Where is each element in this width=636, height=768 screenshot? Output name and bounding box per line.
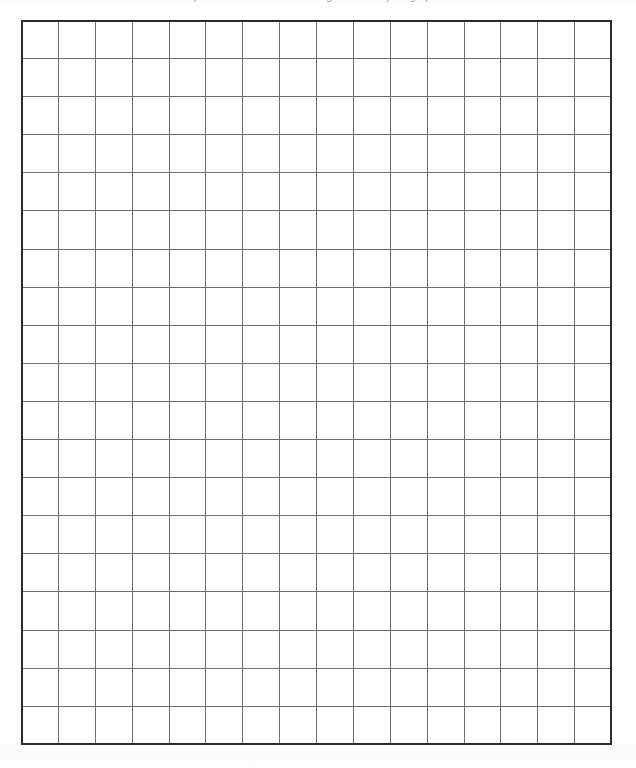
grid-cell[interactable] (169, 249, 206, 287)
grid-cell[interactable] (206, 287, 243, 325)
grid-cell[interactable] (353, 59, 390, 97)
grid-cell[interactable] (95, 249, 132, 287)
grid-cell[interactable] (501, 135, 538, 173)
grid-cell[interactable] (575, 325, 612, 363)
grid-cell[interactable] (206, 516, 243, 554)
grid-cell[interactable] (317, 135, 354, 173)
grid-cell[interactable] (58, 554, 95, 592)
grid-cell[interactable] (501, 440, 538, 478)
grid-cell[interactable] (243, 554, 280, 592)
grid-cell[interactable] (427, 59, 464, 97)
grid-cell[interactable] (427, 97, 464, 135)
grid-cell[interactable] (243, 401, 280, 439)
grid-cell[interactable] (243, 173, 280, 211)
grid-cell[interactable] (58, 287, 95, 325)
grid-cell[interactable] (243, 706, 280, 744)
grid-cell[interactable] (58, 668, 95, 706)
grid-cell[interactable] (427, 249, 464, 287)
grid-cell[interactable] (132, 592, 169, 630)
grid-cell[interactable] (58, 592, 95, 630)
grid-cell[interactable] (427, 401, 464, 439)
grid-cell[interactable] (390, 287, 427, 325)
grid-cell[interactable] (280, 668, 317, 706)
grid-cell[interactable] (280, 363, 317, 401)
grid-cell[interactable] (464, 363, 501, 401)
grid-cell[interactable] (132, 401, 169, 439)
grid-cell[interactable] (501, 325, 538, 363)
grid-cell[interactable] (501, 706, 538, 744)
grid-cell[interactable] (243, 97, 280, 135)
grid-cell[interactable] (317, 592, 354, 630)
grid-cell[interactable] (22, 440, 59, 478)
grid-cell[interactable] (132, 706, 169, 744)
grid-cell[interactable] (575, 173, 612, 211)
grid-cell[interactable] (464, 59, 501, 97)
grid-cell[interactable] (575, 363, 612, 401)
grid-cell[interactable] (538, 478, 575, 516)
grid-cell[interactable] (132, 668, 169, 706)
grid-cell[interactable] (95, 325, 132, 363)
grid-cell[interactable] (427, 592, 464, 630)
grid-cell[interactable] (317, 516, 354, 554)
grid-cell[interactable] (575, 630, 612, 668)
grid-cell[interactable] (132, 478, 169, 516)
grid-cell[interactable] (575, 478, 612, 516)
grid-cell[interactable] (280, 21, 317, 59)
grid-cell[interactable] (22, 516, 59, 554)
grid-cell[interactable] (390, 401, 427, 439)
grid-cell[interactable] (538, 287, 575, 325)
grid-cell[interactable] (390, 97, 427, 135)
grid-cell[interactable] (95, 440, 132, 478)
grid-cell[interactable] (538, 440, 575, 478)
grid-cell[interactable] (538, 516, 575, 554)
grid-cell[interactable] (575, 287, 612, 325)
grid-cell[interactable] (501, 554, 538, 592)
grid-cell[interactable] (575, 668, 612, 706)
grid-cell[interactable] (206, 325, 243, 363)
grid-cell[interactable] (132, 211, 169, 249)
grid-cell[interactable] (317, 325, 354, 363)
grid-cell[interactable] (501, 630, 538, 668)
grid-cell[interactable] (206, 554, 243, 592)
grid-cell[interactable] (58, 401, 95, 439)
grid-cell[interactable] (464, 440, 501, 478)
grid-cell[interactable] (317, 554, 354, 592)
grid-cell[interactable] (280, 440, 317, 478)
grid-cell[interactable] (206, 59, 243, 97)
grid-cell[interactable] (464, 173, 501, 211)
grid-cell[interactable] (353, 211, 390, 249)
grid-cell[interactable] (353, 592, 390, 630)
grid-cell[interactable] (206, 363, 243, 401)
grid-cell[interactable] (501, 478, 538, 516)
grid-cell[interactable] (427, 516, 464, 554)
grid-cell[interactable] (243, 478, 280, 516)
grid-cell[interactable] (58, 97, 95, 135)
grid-cell[interactable] (464, 401, 501, 439)
grid-cell[interactable] (353, 287, 390, 325)
grid-cell[interactable] (390, 592, 427, 630)
grid-cell[interactable] (390, 249, 427, 287)
grid-cell[interactable] (169, 554, 206, 592)
grid-cell[interactable] (206, 97, 243, 135)
grid-cell[interactable] (575, 554, 612, 592)
grid-cell[interactable] (243, 440, 280, 478)
grid-cell[interactable] (317, 668, 354, 706)
grid-cell[interactable] (501, 59, 538, 97)
grid-cell[interactable] (353, 363, 390, 401)
grid-cell[interactable] (169, 97, 206, 135)
grid-cell[interactable] (206, 21, 243, 59)
grid-cell[interactable] (280, 516, 317, 554)
grid-cell[interactable] (280, 478, 317, 516)
grid-cell[interactable] (280, 401, 317, 439)
grid-cell[interactable] (317, 173, 354, 211)
grid-cell[interactable] (22, 630, 59, 668)
grid-cell[interactable] (280, 211, 317, 249)
grid-cell[interactable] (280, 173, 317, 211)
grid-cell[interactable] (243, 363, 280, 401)
grid-cell[interactable] (575, 97, 612, 135)
grid-cell[interactable] (464, 554, 501, 592)
grid-cell[interactable] (464, 287, 501, 325)
grid-cell[interactable] (243, 135, 280, 173)
grid-cell[interactable] (575, 211, 612, 249)
grid-cell[interactable] (280, 325, 317, 363)
